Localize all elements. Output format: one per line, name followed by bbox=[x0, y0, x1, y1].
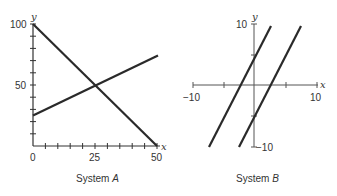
y-tick-50: 50 bbox=[15, 80, 27, 91]
y-axis-label: y bbox=[30, 11, 37, 22]
x-tick-25: 25 bbox=[89, 152, 101, 163]
x-tick-10: 10 bbox=[310, 92, 322, 103]
x-axis-label: x bbox=[320, 79, 326, 90]
y-tick-100: 100 bbox=[10, 19, 27, 30]
caption-system-a: System A bbox=[76, 173, 119, 184]
x-tick-0: 0 bbox=[30, 152, 36, 163]
y-tick-10: 10 bbox=[236, 19, 248, 30]
x-axis-label: x bbox=[161, 141, 167, 152]
y-tick-neg10: −10 bbox=[256, 142, 273, 153]
line-y-2x-minus-5 bbox=[239, 26, 301, 147]
x-tick-50: 50 bbox=[151, 152, 163, 163]
caption-system-b: System B bbox=[236, 173, 279, 184]
chart-system-b: 10 −10 −10 10 y x System B bbox=[183, 11, 326, 184]
figure: 100 50 0 25 50 y x System A 10 −10 −10 1… bbox=[0, 0, 337, 196]
chart-system-a: 100 50 0 25 50 y x System A bbox=[10, 11, 167, 184]
line-y-2x-plus-5 bbox=[209, 26, 271, 147]
x-tick-neg10: −10 bbox=[183, 92, 200, 103]
line-increasing bbox=[33, 56, 158, 116]
y-axis-label: y bbox=[251, 11, 258, 22]
